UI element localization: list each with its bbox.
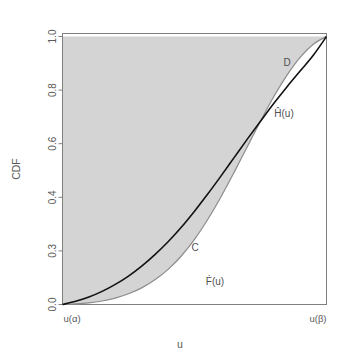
y-tick-label: 0.0 [47,297,58,311]
curve-label-h-hat: Ĥ(u) [274,107,293,119]
y-tick-label: 0.8 [47,83,58,97]
x-tick-label-left: u(α) [63,313,80,324]
x-tick-label-right: u(β) [309,313,326,324]
x-axis-title: u [177,338,183,350]
y-tick-label: 0.4 [47,190,58,204]
y-tick-label: 0.6 [47,136,58,150]
region-label-c: C [191,242,198,253]
chart-canvas: 1.00.80.60.40.30.0 D Ĥ(u) C Ḟ(u) u(α) u(… [0,0,358,364]
y-axis-title: CDF [10,158,22,180]
cdf-chart-figure: 1.00.80.60.40.30.0 D Ĥ(u) C Ḟ(u) u(α) u(… [0,0,358,364]
region-label-d: D [283,57,290,68]
curve-label-f-hat: Ḟ(u) [206,275,224,287]
y-tick-label: 1.0 [47,29,58,43]
y-tick-label: 0.3 [47,244,58,258]
